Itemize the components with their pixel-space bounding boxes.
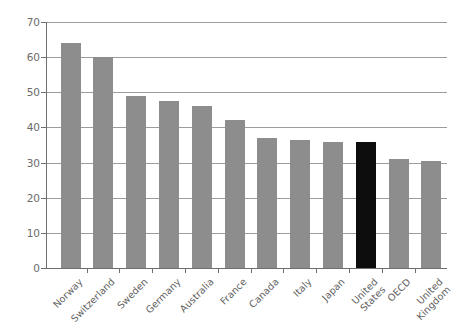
y-tick-label-wrap: 50: [0, 87, 40, 97]
x-tick-mark: [87, 269, 88, 273]
bar: [61, 43, 81, 268]
y-tick-label: 40: [4, 122, 40, 132]
bar: [290, 140, 310, 268]
y-tick-label: 20: [4, 193, 40, 203]
y-tick-label: 0: [4, 263, 40, 273]
y-tick-mark: [41, 268, 46, 269]
bar: [356, 142, 376, 269]
y-tick-mark: [41, 92, 46, 93]
bar: [93, 57, 113, 268]
x-tick-mark: [415, 269, 416, 273]
x-tick-mark: [283, 269, 284, 273]
x-tick-mark: [218, 269, 219, 273]
y-tick-mark: [41, 57, 46, 58]
x-tick-mark: [251, 269, 252, 273]
bar: [159, 101, 179, 268]
x-tick-mark: [382, 269, 383, 273]
x-axis-label: Norway: [13, 276, 84, 336]
bar: [389, 159, 409, 268]
bar: [421, 161, 441, 268]
y-tick-label: 10: [4, 228, 40, 238]
y-tick-mark: [41, 233, 46, 234]
bar: [192, 106, 212, 268]
bar: [126, 96, 146, 268]
y-tick-label-wrap: 0: [0, 263, 40, 273]
y-tick-label: 60: [4, 52, 40, 62]
y-tick-mark: [41, 198, 46, 199]
x-tick-mark: [119, 269, 120, 273]
x-tick-mark: [185, 269, 186, 273]
y-tick-label-wrap: 20: [0, 193, 40, 203]
y-tick-label-wrap: 70: [0, 17, 40, 27]
y-tick-label: 30: [4, 158, 40, 168]
x-tick-mark: [316, 269, 317, 273]
plot-area: [47, 22, 447, 268]
y-tick-label-wrap: 40: [0, 122, 40, 132]
gridline: [47, 22, 447, 23]
bar: [225, 120, 245, 268]
bar-chart: U.S. Dollars 706050403020100 NorwaySwitz…: [0, 0, 465, 336]
y-tick-label-wrap: 10: [0, 228, 40, 238]
x-tick-mark: [152, 269, 153, 273]
y-tick-label: 70: [4, 17, 40, 27]
y-tick-mark: [41, 22, 46, 23]
y-tick-mark: [41, 127, 46, 128]
y-tick-label-wrap: 30: [0, 158, 40, 168]
bar: [323, 142, 343, 269]
bar: [257, 138, 277, 268]
y-tick-label: 50: [4, 87, 40, 97]
y-tick-label-wrap: 60: [0, 52, 40, 62]
y-tick-mark: [41, 163, 46, 164]
x-tick-mark: [349, 269, 350, 273]
gridline: [47, 268, 447, 269]
